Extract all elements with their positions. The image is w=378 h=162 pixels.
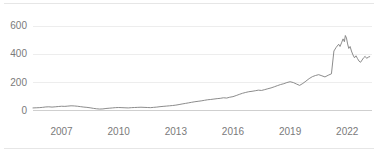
y-axis-tick-labels: 0200400600 bbox=[10, 20, 27, 116]
x-tick-label-2007: 2007 bbox=[50, 126, 73, 137]
series-line-value bbox=[33, 36, 370, 110]
y-tick-label-0: 0 bbox=[21, 105, 27, 116]
x-tick-label-2016: 2016 bbox=[222, 126, 245, 137]
data-series-group bbox=[33, 36, 370, 110]
gridlines-group bbox=[33, 27, 372, 83]
x-tick-label-2013: 2013 bbox=[165, 126, 188, 137]
chart-card: 0200400600 200720102013201620192022 bbox=[0, 0, 378, 162]
y-tick-label-600: 600 bbox=[10, 20, 27, 31]
x-tick-label-2022: 2022 bbox=[336, 126, 359, 137]
y-tick-label-200: 200 bbox=[10, 77, 27, 88]
x-tick-label-2019: 2019 bbox=[279, 126, 302, 137]
line-chart-svg: 0200400600 200720102013201620192022 bbox=[0, 0, 378, 162]
x-axis-tick-labels: 200720102013201620192022 bbox=[50, 126, 358, 137]
y-tick-label-400: 400 bbox=[10, 48, 27, 59]
x-tick-label-2010: 2010 bbox=[108, 126, 131, 137]
line-chart-plot-area: 0200400600 200720102013201620192022 bbox=[0, 0, 378, 162]
